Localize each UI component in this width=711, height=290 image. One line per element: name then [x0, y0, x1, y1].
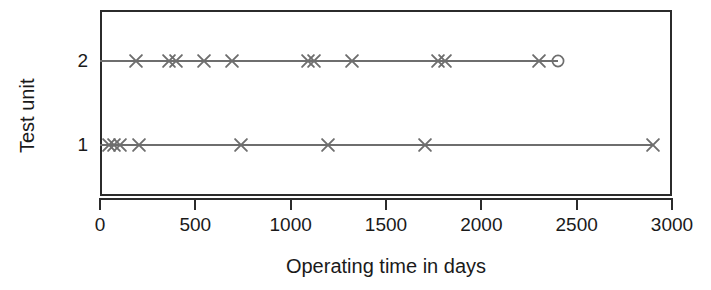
y-axis-tick-label: 2	[77, 50, 88, 72]
x-cross-marker	[132, 138, 147, 153]
x-axis-tick	[480, 198, 482, 210]
x-axis-tick-label: 500	[179, 214, 211, 236]
x-cross-marker	[437, 53, 452, 68]
x-cross-marker	[417, 138, 432, 153]
x-cross-marker	[234, 138, 249, 153]
y-axis-title: Test unit	[16, 79, 39, 153]
x-axis-tick	[576, 198, 578, 210]
y-axis-tick-label: 1	[77, 134, 88, 156]
x-axis-tick	[290, 198, 292, 210]
x-cross-marker	[645, 138, 660, 153]
x-axis-tick	[385, 198, 387, 210]
x-axis-tick-label: 1000	[270, 214, 312, 236]
x-cross-marker	[128, 53, 143, 68]
x-cross-marker	[113, 138, 128, 153]
x-cross-marker	[344, 53, 359, 68]
x-cross-marker	[196, 53, 211, 68]
x-axis-tick-label: 1500	[365, 214, 407, 236]
x-cross-marker	[306, 53, 321, 68]
series-lifeline	[100, 144, 653, 146]
x-axis-tick	[671, 198, 673, 210]
open-circle-marker	[550, 53, 565, 68]
x-cross-marker	[168, 53, 183, 68]
x-cross-marker	[531, 53, 546, 68]
chart-root: Test unit 05001000150020002500300012 Ope…	[0, 0, 711, 290]
x-axis-tick	[194, 198, 196, 210]
x-cross-marker	[321, 138, 336, 153]
x-axis-tick-label: 2000	[460, 214, 502, 236]
x-axis-tick-label: 3000	[651, 214, 693, 236]
x-cross-marker	[224, 53, 239, 68]
plot-frame	[100, 10, 672, 196]
x-axis-tick-label: 2500	[556, 214, 598, 236]
x-axis-tick	[99, 198, 101, 210]
x-axis-tick-label: 0	[95, 214, 106, 236]
x-axis-title: Operating time in days	[100, 255, 672, 278]
